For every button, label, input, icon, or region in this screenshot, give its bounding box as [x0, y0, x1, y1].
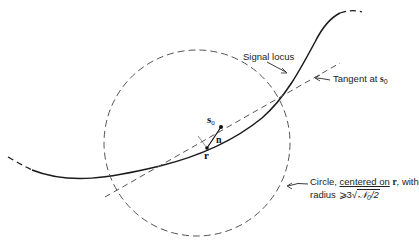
signal-locus-label: Signal locus: [243, 51, 294, 62]
radicand: 𝒩0/2: [357, 189, 380, 203]
n-label: n: [216, 134, 222, 145]
signal-locus-curve: [32, 13, 340, 179]
signal-locus-arrow: [281, 68, 287, 73]
s0-label: s0: [207, 113, 215, 127]
tangent-line: [105, 63, 340, 197]
circle-arrow: [287, 183, 292, 189]
r-label: r: [204, 149, 209, 161]
tangent-label: Tangent at s0: [333, 73, 388, 85]
signal-locus-dashed-left: [8, 157, 32, 170]
circle-label-line1: Circle, centered on r, with: [310, 176, 419, 187]
projection-line: [198, 136, 207, 148]
decision-circle: [104, 50, 290, 236]
signal-locus-leader: [267, 62, 286, 72]
signal-locus-dashed-right: [340, 11, 362, 13]
circle-label-line2: radius ⩾3√𝒩0/2: [310, 189, 380, 203]
